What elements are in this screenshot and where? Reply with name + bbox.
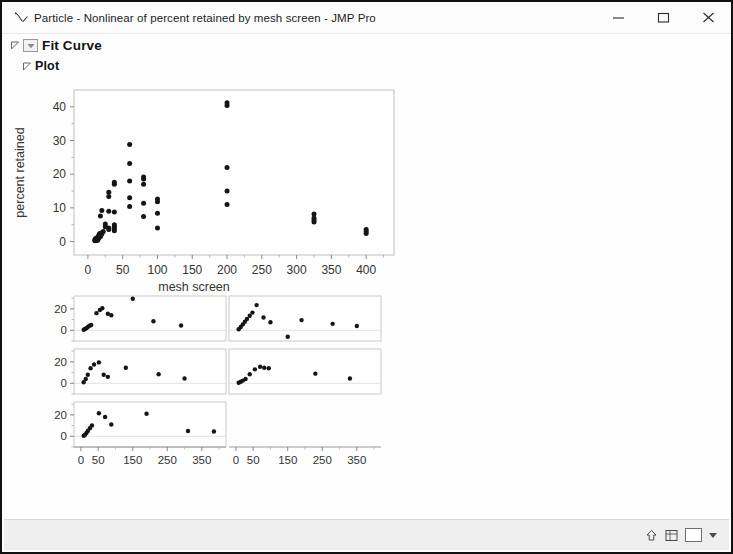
data-point (112, 226, 117, 231)
data-point (225, 103, 230, 108)
close-icon[interactable] (686, 2, 731, 33)
data-point (155, 226, 160, 231)
data-point (127, 142, 132, 147)
x-tick-label: 150 (123, 454, 142, 466)
data-point (98, 213, 103, 218)
data-point (262, 366, 266, 370)
disclosure-triangle-icon[interactable] (10, 40, 21, 51)
data-point (156, 372, 160, 376)
outline-node-fit-curve[interactable]: Fit Curve (4, 35, 729, 56)
main-scatter-plot: 050100150200250300350400010203040mesh sc… (13, 90, 394, 294)
title-bar: Particle - Nonlinear of percent retained… (2, 2, 731, 34)
data-point (267, 366, 271, 370)
data-point (124, 366, 128, 370)
data-point (89, 323, 93, 327)
data-point (355, 324, 359, 328)
data-point (131, 296, 135, 300)
data-point (141, 176, 146, 181)
y-tick-label: 40 (53, 100, 67, 114)
data-point (186, 429, 190, 433)
x-axis-label: mesh screen (158, 280, 230, 294)
data-point (103, 222, 108, 227)
maximize-icon[interactable] (641, 2, 686, 33)
data-point (254, 303, 258, 307)
data-point (212, 429, 216, 433)
x-tick-label: 150 (182, 263, 202, 277)
data-point (250, 310, 254, 314)
outline-label-fit-curve: Fit Curve (42, 38, 102, 53)
data-point (312, 220, 317, 225)
data-point (94, 311, 98, 315)
data-point (182, 376, 186, 380)
data-point (253, 367, 257, 371)
grid-icon[interactable] (665, 529, 678, 542)
panel-icon[interactable] (685, 528, 702, 542)
y-tick-label: 0 (61, 377, 67, 389)
residual-panel-grid: 020020020050150250350050150250350 (54, 296, 381, 466)
data-point (106, 190, 111, 195)
main-plot-frame (74, 90, 394, 255)
x-tick-label: 300 (287, 263, 307, 277)
red-triangle-menu-icon[interactable] (23, 39, 38, 52)
x-tick-label: 350 (347, 454, 366, 466)
x-tick-label: 250 (252, 263, 272, 277)
status-bar (4, 519, 729, 550)
scatter-plots-svg: 050100150200250300350400010203040mesh sc… (4, 78, 464, 478)
data-point (109, 313, 113, 317)
y-tick-label: 20 (54, 356, 67, 368)
x-tick-label: 200 (217, 263, 237, 277)
outline-node-plot[interactable]: Plot (4, 56, 729, 76)
data-point (225, 189, 230, 194)
data-point (100, 306, 104, 310)
y-tick-label: 0 (59, 235, 66, 249)
data-point (92, 362, 96, 366)
data-point (364, 231, 369, 236)
dropdown-caret-icon[interactable] (709, 533, 717, 538)
minimize-icon[interactable] (596, 2, 641, 33)
data-point (127, 161, 132, 166)
y-tick-label: 30 (53, 134, 67, 148)
data-point (127, 178, 132, 183)
x-tick-label: 250 (313, 454, 332, 466)
x-tick-label: 350 (321, 263, 341, 277)
data-point (84, 377, 88, 381)
data-point (127, 195, 132, 200)
data-point (179, 323, 183, 327)
data-point (248, 372, 252, 376)
residual-panel-frame (74, 296, 226, 341)
data-point (97, 411, 101, 415)
data-point (99, 208, 104, 213)
residual-panel-frame (229, 349, 381, 394)
y-tick-label: 0 (61, 324, 67, 336)
data-point (97, 360, 101, 364)
residual-panel-frame (74, 349, 226, 394)
data-point (106, 226, 111, 231)
data-point (313, 371, 317, 375)
data-point (101, 229, 106, 234)
x-tick-label: 100 (147, 263, 167, 277)
data-point (106, 375, 110, 379)
outline-panel: Fit Curve Plot (4, 35, 729, 76)
data-point (112, 209, 117, 214)
data-point (141, 214, 146, 219)
data-point (127, 204, 132, 209)
x-tick-label: 400 (356, 263, 376, 277)
y-tick-label: 0 (61, 430, 67, 442)
data-point (103, 415, 107, 419)
x-tick-label: 0 (78, 454, 84, 466)
disclosure-triangle-icon[interactable] (22, 61, 33, 72)
data-point (141, 201, 146, 206)
data-point (90, 423, 94, 427)
y-tick-label: 10 (53, 201, 67, 215)
jmp-curve-icon (10, 11, 32, 24)
data-point (106, 209, 111, 214)
data-point (258, 364, 262, 368)
home-arrow-icon[interactable] (645, 529, 658, 542)
y-tick-label: 20 (54, 303, 67, 315)
data-point (268, 320, 272, 324)
x-tick-label: 0 (85, 263, 92, 277)
x-tick-label: 350 (192, 454, 211, 466)
x-tick-label: 50 (92, 454, 105, 466)
data-point (261, 315, 265, 319)
data-point (144, 412, 148, 416)
